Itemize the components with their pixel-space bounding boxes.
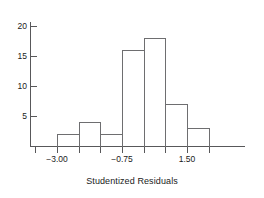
y-label-20-wrap: 20 (0, 22, 27, 30)
y-label-10: 10 (5, 82, 27, 90)
histogram-bar (79, 122, 101, 147)
y-tick-15 (31, 56, 37, 57)
y-tick-5 (31, 116, 37, 117)
x-tick-1p50 (187, 147, 188, 153)
x-tick-minus3p75 (35, 147, 36, 153)
y-label-15: 15 (5, 52, 27, 60)
histogram-bar (144, 38, 166, 147)
x-tick-minus1p50 (100, 147, 101, 153)
x-tick-0p75 (165, 147, 166, 153)
x-label-minus3p00: −3.00 (37, 154, 77, 164)
y-axis-line (30, 22, 31, 146)
x-tick-minus3p00 (57, 147, 58, 153)
y-tick-10 (31, 86, 37, 87)
y-label-15-wrap: 15 (0, 52, 27, 60)
y-label-20: 20 (5, 22, 27, 30)
x-tick-minus0p75 (122, 147, 123, 153)
histogram-figure: 20 15 10 5 −3.00 −0.75 1.50 Studentized … (0, 0, 264, 198)
x-tick-minus2p25 (79, 147, 80, 153)
x-label-1p50: 1.50 (167, 154, 207, 164)
y-label-5-wrap: 5 (0, 112, 27, 120)
x-tick-0p00 (144, 147, 145, 153)
y-tick-20 (31, 26, 37, 27)
x-axis-title: Studentized Residuals (0, 176, 264, 186)
histogram-bar (100, 134, 123, 147)
histogram-bar (57, 134, 80, 147)
histogram-bar (187, 128, 210, 147)
histogram-bar (165, 104, 188, 147)
x-tick-2p25 (209, 147, 210, 153)
x-label-minus0p75: −0.75 (102, 154, 142, 164)
y-label-5: 5 (5, 112, 27, 120)
histogram-bar (122, 50, 145, 147)
y-label-10-wrap: 10 (0, 82, 27, 90)
